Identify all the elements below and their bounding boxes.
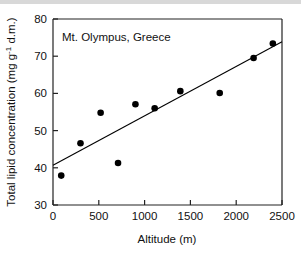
- y-axis-title: Total lipid concentration (mg g-1 d.m.): [4, 17, 17, 206]
- x-tick-label: 500: [89, 210, 108, 222]
- data-point: [115, 160, 122, 167]
- y-axis-title-prefix: Total lipid concentration (mg g: [5, 54, 17, 207]
- x-axis-title: Altitude (m): [138, 233, 197, 245]
- y-tick-label: 80: [34, 13, 47, 25]
- data-point: [177, 88, 184, 95]
- data-point: [77, 140, 84, 147]
- svg-text:Total lipid concentration (mg: Total lipid concentration (mg g-1 d.m.): [4, 17, 17, 206]
- x-tick-label: 2500: [269, 210, 295, 222]
- chart-annotation: Mt. Olympus, Greece: [62, 31, 171, 43]
- data-point: [97, 109, 104, 116]
- data-point-group: [58, 40, 276, 179]
- y-tick-label: 70: [34, 50, 47, 62]
- y-axis-tick-labels: 80 70 60 50 40 30: [34, 13, 47, 211]
- data-point: [216, 90, 223, 97]
- scatter-plot: 80 70 60 50 40 30 0 500 1000 1500 2000 2…: [0, 0, 301, 266]
- y-tick-label: 60: [34, 87, 47, 99]
- data-point: [151, 105, 158, 112]
- data-point: [58, 172, 65, 179]
- x-tick-label: 2000: [223, 210, 249, 222]
- data-point: [132, 101, 139, 108]
- axis-frame: [53, 19, 282, 205]
- y-tick-label: 30: [34, 199, 47, 211]
- x-axis-tick-labels: 0 500 1000 1500 2000 2500: [50, 210, 295, 222]
- x-tick-label: 1500: [178, 210, 204, 222]
- x-tick-label: 1000: [132, 210, 158, 222]
- y-axis-title-suffix: d.m.): [5, 17, 17, 47]
- x-tick-label: 0: [50, 210, 56, 222]
- y-tick-label: 40: [34, 162, 47, 174]
- y-axis-ticks: [53, 19, 58, 205]
- data-point: [270, 40, 277, 47]
- figure-container: 80 70 60 50 40 30 0 500 1000 1500 2000 2…: [0, 0, 301, 266]
- regression-line: [53, 42, 282, 166]
- data-point: [250, 55, 257, 62]
- x-axis-ticks: [53, 200, 282, 205]
- y-tick-label: 50: [34, 125, 47, 137]
